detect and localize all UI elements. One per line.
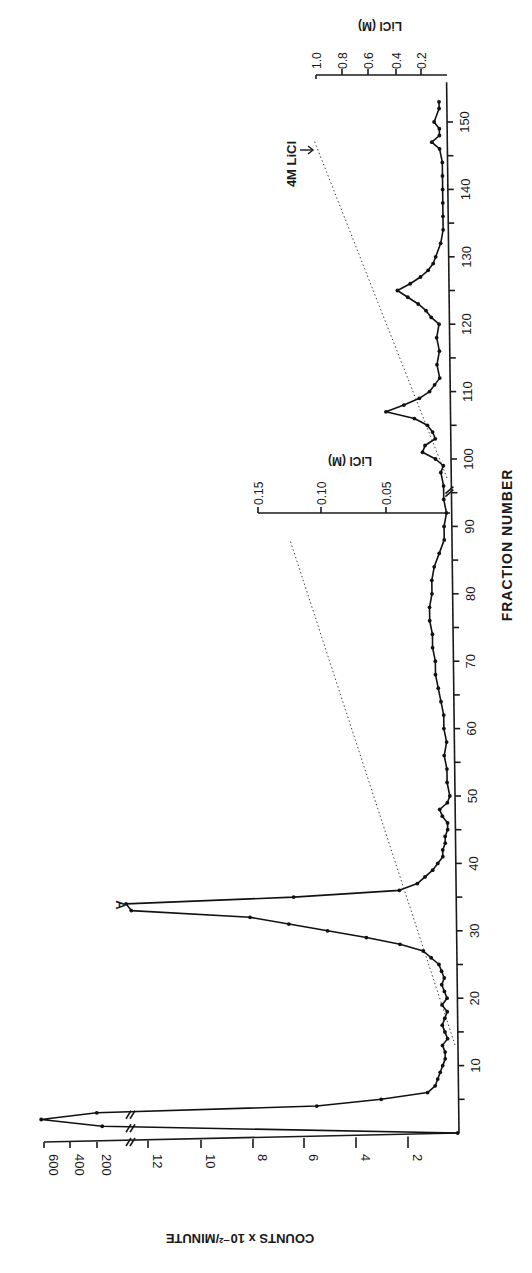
licl-upper-tick-label: 0.4 — [390, 52, 404, 69]
data-point — [445, 996, 449, 1000]
fraction-tick-label: 130 — [459, 246, 474, 268]
data-point — [430, 592, 434, 596]
fraction-tick-label: 30 — [467, 924, 482, 938]
data-point — [364, 936, 368, 940]
data-point — [445, 767, 449, 771]
data-point — [431, 632, 435, 636]
data-point — [446, 821, 450, 825]
data-point — [384, 410, 388, 414]
fraction-tick-label: 120 — [459, 313, 474, 335]
fraction-tick-label: 100 — [461, 448, 476, 470]
data-point — [435, 336, 439, 340]
data-point — [445, 801, 449, 805]
data-point — [440, 1023, 444, 1027]
data-point — [446, 828, 450, 832]
data-point — [430, 140, 434, 144]
data-point — [448, 794, 452, 798]
data-point — [441, 214, 445, 218]
chromatography-chart: 1020304050607080901001101201301401502468… — [0, 0, 532, 1273]
gradient-lines — [290, 140, 455, 1045]
data-point — [442, 498, 446, 502]
data-point — [442, 484, 446, 488]
data-point — [423, 875, 427, 879]
data-point — [446, 1037, 450, 1041]
data-point — [419, 275, 423, 279]
data-point — [440, 814, 444, 818]
fraction-tick-label: 40 — [466, 856, 481, 870]
data-point — [445, 1010, 449, 1014]
data-point — [421, 450, 425, 454]
licl-upper-tick-label: 0.6 — [362, 52, 376, 69]
fraction-tick-label: 10 — [468, 1058, 483, 1072]
data-point — [434, 255, 438, 259]
licl-upper-tick-label: 0.2 — [415, 52, 429, 69]
tick-labels: 1020304050607080901001101201301401502468… — [46, 52, 483, 1176]
data-point — [437, 322, 441, 326]
licl-lower-tick-label: 0.05 — [380, 481, 394, 505]
data-point — [442, 525, 446, 529]
data-point — [432, 120, 436, 124]
data-point — [424, 309, 428, 313]
data-point — [443, 1057, 447, 1061]
counts-tick-label: 4 — [358, 1154, 373, 1161]
data-point — [397, 888, 401, 892]
data-point — [441, 1043, 445, 1047]
data-point — [433, 437, 437, 441]
data-point — [441, 228, 445, 232]
data-point — [428, 390, 432, 394]
data-point — [425, 423, 429, 427]
fraction-axis-line — [447, 82, 459, 1133]
data-point — [456, 1131, 460, 1135]
data-point — [438, 1070, 442, 1074]
data-point — [416, 302, 420, 306]
data-point — [396, 289, 400, 293]
data-point — [426, 1091, 430, 1095]
data-point — [443, 1017, 447, 1021]
data-point — [441, 855, 445, 859]
data-point — [443, 841, 447, 845]
data-point — [287, 922, 291, 926]
data-point — [441, 188, 445, 192]
fraction-tick-label: 110 — [460, 381, 475, 402]
data-point — [439, 241, 443, 245]
data-point — [429, 316, 433, 320]
fraction-tick-label: 140 — [458, 179, 473, 201]
data-point — [428, 619, 432, 623]
data-point — [433, 659, 437, 663]
data-point — [434, 457, 438, 461]
data-point — [428, 605, 432, 609]
data-point — [95, 1111, 99, 1115]
data-point — [443, 1030, 447, 1034]
counts-tick-label: 10 — [203, 1154, 218, 1168]
data-point — [436, 1077, 440, 1081]
counts-tick-label: 200 — [99, 1154, 114, 1176]
data-point — [440, 1003, 444, 1007]
four-m-licl-label: 4M LiCl — [284, 141, 299, 187]
data-point — [433, 383, 437, 387]
data-point — [431, 646, 435, 650]
data-point — [431, 262, 435, 266]
peak-a-label: A — [113, 900, 128, 910]
data-point — [426, 268, 430, 272]
data-point — [442, 754, 446, 758]
data-point — [421, 949, 425, 953]
data-point — [443, 1050, 447, 1054]
fraction-tick-label: 150 — [457, 111, 472, 133]
data-point — [417, 396, 421, 400]
data-point — [441, 848, 445, 852]
data-point — [415, 882, 419, 886]
data-series — [39, 100, 459, 1135]
data-point — [423, 444, 427, 448]
data-point — [437, 107, 441, 111]
data-point — [39, 1118, 43, 1122]
data-point — [379, 1097, 383, 1101]
data-point — [434, 673, 438, 677]
data-point — [437, 100, 441, 104]
data-point — [443, 990, 447, 994]
gradient-line-upper — [314, 140, 447, 478]
licl-upper-tick-label: 1.0 — [310, 52, 324, 69]
fraction-tick-label: 90 — [462, 519, 477, 533]
data-point — [438, 349, 442, 353]
counts-line — [41, 102, 458, 1133]
licl-upper-tick-label: 0.8 — [336, 52, 350, 69]
